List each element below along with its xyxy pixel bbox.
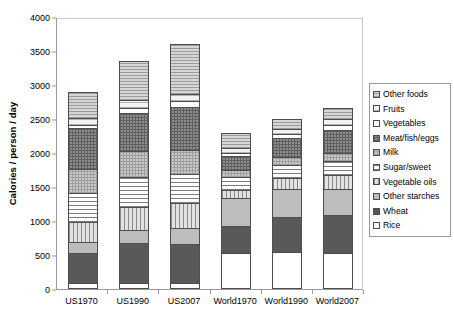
bar-segment[interactable] (323, 130, 353, 153)
bar-segment[interactable] (119, 230, 149, 245)
y-axis-tick-mark (52, 256, 56, 257)
bar-segment[interactable] (323, 175, 353, 190)
chart-legend: Other foodsFruitsVegetablesMeat/fish/egg… (369, 83, 451, 237)
y-axis-tick-mark (52, 154, 56, 155)
bar-segment[interactable] (272, 217, 302, 253)
y-axis-tick-mark (52, 86, 56, 87)
x-axis-tick-label: US1990 (116, 296, 149, 306)
stacked-bar[interactable] (323, 108, 353, 289)
bar-segment[interactable] (170, 228, 200, 244)
bar-segment[interactable] (323, 189, 353, 216)
bar-segment[interactable] (170, 283, 200, 289)
legend-item-label: Rice (383, 221, 400, 230)
bar-segment[interactable] (119, 113, 149, 152)
bar-segment[interactable] (272, 252, 302, 289)
x-axis-tick-mark (107, 290, 108, 294)
legend-swatch-icon (373, 164, 380, 171)
legend-item-label: Other starches (383, 192, 439, 201)
legend-item[interactable]: Other foods (373, 87, 448, 102)
legend-item-label: Wheat (383, 207, 408, 216)
legend-item-label: Meat/fish/eggs (383, 134, 439, 143)
legend-swatch-icon (373, 222, 380, 229)
y-axis-tick-mark (52, 120, 56, 121)
x-axis-tick-mark (261, 290, 262, 294)
bar-segment[interactable] (221, 156, 251, 171)
legend-item[interactable]: Wheat (373, 204, 448, 219)
bar-segment[interactable] (119, 207, 149, 231)
bar-segment[interactable] (68, 193, 98, 223)
bar-segment[interactable] (272, 165, 302, 179)
legend-item[interactable]: Sugar/sweet (373, 160, 448, 175)
bar-segment[interactable] (119, 243, 149, 283)
legend-swatch-icon (373, 178, 380, 185)
bar-segment[interactable] (170, 150, 200, 176)
bar-segment[interactable] (272, 189, 302, 218)
x-axis-tick-label: US2007 (168, 296, 201, 306)
bar-segment[interactable] (68, 92, 98, 119)
legend-item[interactable]: Other starches (373, 189, 448, 204)
legend-item[interactable]: Meat/fish/eggs (373, 131, 448, 146)
legend-item[interactable]: Vegetable oils (373, 175, 448, 190)
bar-slot (262, 19, 313, 289)
bar-segment[interactable] (170, 107, 200, 151)
bar-segment[interactable] (68, 169, 98, 194)
bar-segment[interactable] (221, 177, 251, 190)
y-axis-tick-label: 1500 (10, 183, 56, 193)
legend-item[interactable]: Milk (373, 145, 448, 160)
bar-segment[interactable] (119, 177, 149, 208)
legend-swatch-icon (373, 120, 380, 127)
y-axis-tick-label: 1000 (10, 217, 56, 227)
legend-item[interactable]: Rice (373, 218, 448, 233)
legend-item-label: Fruits (383, 105, 404, 114)
plot-area (56, 18, 363, 290)
bar-segment[interactable] (323, 215, 353, 254)
y-axis-tick-mark (52, 222, 56, 223)
stacked-bar[interactable] (119, 61, 149, 289)
bar-segment[interactable] (68, 253, 98, 284)
bar-segment[interactable] (119, 283, 149, 289)
bar-slot (57, 19, 108, 289)
x-axis-tick-label: World1990 (265, 296, 308, 306)
legend-item-label: Milk (383, 148, 398, 157)
bar-segment[interactable] (68, 222, 98, 242)
bar-segment[interactable] (68, 128, 98, 170)
bar-segment[interactable] (170, 44, 200, 95)
y-axis-tick-label: 500 (10, 251, 56, 261)
x-axis-tick-mark (312, 290, 313, 294)
bar-segment[interactable] (119, 151, 149, 178)
stacked-bar[interactable] (170, 44, 200, 289)
legend-item[interactable]: Vegetables (373, 116, 448, 131)
bar-segment[interactable] (221, 133, 251, 149)
bar-segment[interactable] (170, 174, 200, 204)
bar-segment[interactable] (221, 198, 251, 227)
x-axis-tick-label: US1970 (65, 296, 98, 306)
y-axis-tick-label: 4000 (10, 13, 56, 23)
bar-segment[interactable] (221, 226, 251, 254)
y-axis-tick-label: 3000 (10, 81, 56, 91)
x-axis-tick-mark (158, 290, 159, 294)
bar-segment[interactable] (221, 253, 251, 289)
bar-segment[interactable] (323, 161, 353, 176)
y-axis-tick-label: 2000 (10, 149, 56, 159)
legend-swatch-icon (373, 149, 380, 156)
bar-segment[interactable] (119, 61, 149, 101)
bar-slot (108, 19, 159, 289)
x-axis-tick-mark (363, 290, 364, 294)
legend-swatch-icon (373, 91, 380, 98)
bar-segment[interactable] (170, 203, 200, 230)
x-axis-tick-label: World1970 (213, 296, 256, 306)
legend-swatch-icon (373, 208, 380, 215)
stacked-bar[interactable] (68, 92, 98, 289)
bar-segment[interactable] (170, 244, 200, 284)
x-axis-tick-label: World2007 (316, 296, 359, 306)
legend-item[interactable]: Fruits (373, 102, 448, 117)
bar-segment[interactable] (68, 283, 98, 289)
legend-swatch-icon (373, 105, 380, 112)
y-axis-tick-mark (52, 188, 56, 189)
y-axis-tick-label: 2500 (10, 115, 56, 125)
stacked-bar[interactable] (272, 119, 302, 289)
bar-segment[interactable] (272, 138, 302, 158)
stacked-bar[interactable] (221, 133, 251, 289)
bar-segment[interactable] (323, 253, 353, 289)
y-axis-tick-label: 3500 (10, 47, 56, 57)
